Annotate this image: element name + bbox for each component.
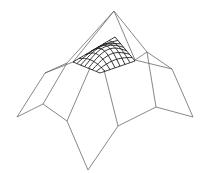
net-edge-apex-left_top — [67, 11, 114, 63]
net-edge-patch_right-right_mid — [135, 60, 172, 69]
net-edge-right_top-right_mid — [147, 52, 172, 69]
net-edge-right_top-right_low — [147, 52, 156, 107]
wireframe-surface-diagram — [0, 0, 211, 173]
net-edge-inner_right-right_low — [118, 107, 156, 126]
net-edge-patch_bottom_right-inner_right — [104, 70, 118, 126]
net-edge-patch_right-right_top — [135, 52, 147, 60]
net-edge-patch_bottom_left-inner_left — [67, 68, 90, 121]
net-edge-rightmost-right_mid — [172, 69, 193, 117]
net-edge-left_low-inner_left — [43, 104, 67, 121]
net-edge-bottom-inner_right — [88, 126, 118, 170]
control-net — [17, 11, 193, 170]
surface-patch-grid — [73, 37, 135, 73]
patch-isoline-v-6 — [96, 58, 132, 72]
net-edge-inner_left-bottom — [67, 121, 88, 170]
net-edge-right_low-rightmost — [156, 107, 193, 117]
net-edge-patch_left-left_mid — [45, 62, 73, 73]
